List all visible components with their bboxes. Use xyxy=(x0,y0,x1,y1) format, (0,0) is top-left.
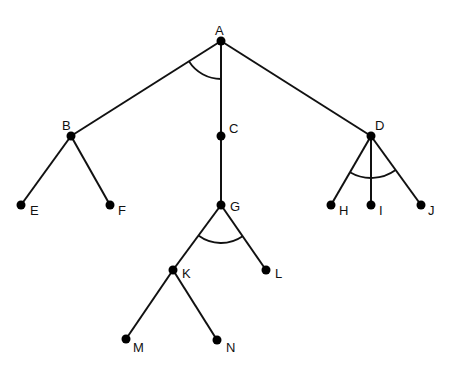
node-label-a: A xyxy=(215,23,224,38)
and-or-tree-diagram: ABCDEFGHIJKLMN xyxy=(0,0,451,365)
node-label-f: F xyxy=(118,203,126,218)
node-label-l: L xyxy=(275,266,282,281)
edge-k-m xyxy=(126,270,173,339)
edge-a-d xyxy=(221,41,371,136)
node-n xyxy=(213,336,222,345)
node-l xyxy=(262,266,271,275)
node-g xyxy=(217,201,226,210)
node-c xyxy=(217,132,226,141)
node-f xyxy=(106,201,115,210)
edge-a-b xyxy=(71,41,221,136)
node-e xyxy=(17,201,26,210)
node-label-b: B xyxy=(62,118,71,133)
node-h xyxy=(327,201,336,210)
edge-k-n xyxy=(173,270,217,340)
node-i xyxy=(367,201,376,210)
and-arc-g xyxy=(198,236,242,243)
and-arcs xyxy=(189,61,396,243)
edge-b-f xyxy=(71,136,110,205)
node-j xyxy=(417,201,426,210)
node-label-e: E xyxy=(30,203,39,218)
node-k xyxy=(169,266,178,275)
node-label-j: J xyxy=(428,203,435,218)
node-m xyxy=(122,335,131,344)
node-label-n: N xyxy=(226,340,235,355)
edge-g-l xyxy=(221,205,266,270)
node-label-d: D xyxy=(375,118,384,133)
node-label-i: I xyxy=(379,203,383,218)
node-labels: ABCDEFGHIJKLMN xyxy=(30,23,435,355)
and-arc-a xyxy=(189,61,221,79)
edge-d-h xyxy=(331,136,371,205)
and-arc-d xyxy=(350,170,396,178)
node-label-k: K xyxy=(182,266,191,281)
edge-b-e xyxy=(21,136,71,205)
node-label-h: H xyxy=(339,203,348,218)
tree-edges xyxy=(21,41,421,340)
node-label-c: C xyxy=(229,121,238,136)
edge-g-k xyxy=(173,205,221,270)
node-label-m: M xyxy=(133,340,144,355)
node-label-g: G xyxy=(230,199,240,214)
